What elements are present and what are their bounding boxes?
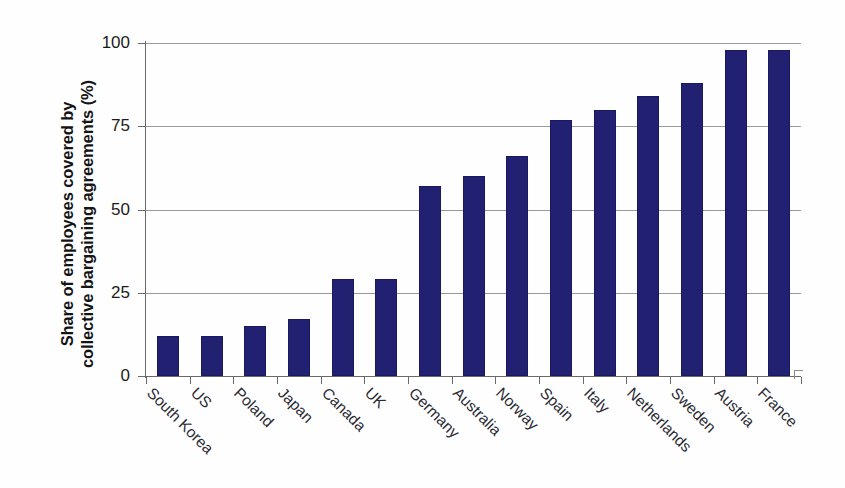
y-axis-title-line-1: Share of employees covered by <box>57 102 77 347</box>
x-axis-tick-mark <box>626 377 627 384</box>
bar <box>725 50 747 376</box>
bar <box>637 96 659 376</box>
y-axis-tick-mark <box>138 376 146 377</box>
x-axis-tick-mark <box>714 377 715 384</box>
bar <box>244 326 266 376</box>
x-axis-tick-mark <box>146 377 147 384</box>
y-axis-tick-label: 75 <box>82 116 130 136</box>
x-axis-tick-mark <box>233 377 234 384</box>
x-axis-tick-mark <box>321 377 322 384</box>
x-axis-tick-mark <box>364 377 365 384</box>
plot-area <box>146 43 801 376</box>
x-axis-tick-mark <box>495 377 496 384</box>
x-axis-category-label: France <box>754 384 801 431</box>
x-axis-category-label: Italy <box>580 384 613 417</box>
y-axis-tick-mark <box>138 210 146 211</box>
bar <box>332 279 354 376</box>
y-axis-tick-label: 25 <box>82 283 130 303</box>
x-axis-category-label: UK <box>361 384 389 412</box>
x-axis-category-label: US <box>187 384 215 412</box>
y-axis-tick-label: 100 <box>82 33 130 53</box>
x-axis-tick-mark <box>452 377 453 384</box>
bar-chart-figure: Share of employees covered by collective… <box>0 0 845 488</box>
x-axis-tick-mark <box>277 377 278 384</box>
y-axis-tick-label: 50 <box>82 200 130 220</box>
bar <box>768 50 790 376</box>
gridline <box>146 43 801 44</box>
x-axis-tick-mark <box>583 377 584 384</box>
x-axis-tick-mark <box>190 377 191 384</box>
x-axis-category-label: Poland <box>230 384 277 431</box>
x-axis-category-label: Spain <box>536 384 577 425</box>
y-axis-tick-mark <box>138 126 146 127</box>
x-axis-tick-mark <box>408 377 409 384</box>
x-axis-category-label: Canada <box>318 384 369 435</box>
x-axis-tick-mark <box>757 377 758 384</box>
bar <box>375 279 397 376</box>
x-axis-tick-mark <box>670 377 671 384</box>
y-axis-tick-mark <box>138 293 146 294</box>
x-axis-category-label: Japan <box>274 384 317 427</box>
x-axis-tick-mark <box>539 377 540 384</box>
x-axis-tick-mark <box>801 377 802 384</box>
bar <box>201 336 223 376</box>
bar <box>463 176 485 376</box>
y-axis-tick-mark <box>138 43 146 44</box>
bar <box>288 319 310 376</box>
bar <box>550 120 572 376</box>
bar <box>157 336 179 376</box>
x-axis-category-labels: South KoreaUSPolandJapanCanadaUKGermanyA… <box>0 376 845 488</box>
bar <box>419 186 441 376</box>
bar <box>594 110 616 376</box>
bar <box>506 156 528 376</box>
bar <box>681 83 703 376</box>
